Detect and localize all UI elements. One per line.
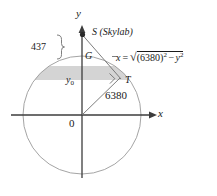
tangent-equation-label: x=√(6380)2−y2 xyxy=(116,51,183,63)
y-naught-subscript: 0 xyxy=(70,79,74,87)
equation-minus: − xyxy=(168,52,174,63)
equation-equals: = xyxy=(122,52,128,63)
radicand-radius-value: 6380 xyxy=(140,52,160,63)
equation-lhs: x xyxy=(116,52,120,63)
radius-label: 6380 xyxy=(105,90,127,101)
altitude-label: 437 xyxy=(31,42,46,52)
altitude-brace xyxy=(57,35,65,59)
point-s-marker xyxy=(80,32,85,37)
radicand: (6380)2−y2 xyxy=(137,51,184,63)
y-naught-label: y0 xyxy=(66,75,74,87)
x-axis-label: x xyxy=(158,108,163,119)
radicand-exponent: 2 xyxy=(163,51,167,59)
y-axis-label: y xyxy=(76,8,81,19)
origin-label: 0 xyxy=(69,118,75,129)
equation-variable-exponent: 2 xyxy=(180,51,184,59)
point-s-label: S (Skylab) xyxy=(92,27,133,37)
point-t-label: T xyxy=(125,75,131,85)
skylab-geometry-figure: y x 0 S (Skylab) G T 437 6380 y0 x=√(638… xyxy=(0,0,217,196)
point-g-label: G xyxy=(85,51,92,61)
y-axis xyxy=(79,25,86,178)
radical-sign: √ xyxy=(130,50,137,64)
